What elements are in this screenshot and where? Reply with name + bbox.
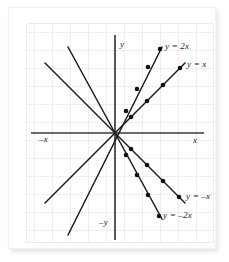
plot-frame: y –y –x x y = 2x y = x y = –x y = –2x [26, 23, 214, 243]
data-point [161, 83, 166, 88]
line-label-y-neg-x: y = –x [186, 192, 210, 201]
data-point [145, 163, 150, 168]
data-point [135, 173, 140, 178]
data-point [135, 87, 140, 92]
data-point [145, 99, 150, 104]
data-point [129, 115, 134, 120]
axis-label-y-negative: –y [99, 218, 108, 227]
figure-root: y –y –x x y = 2x y = x y = –x y = –2x [0, 0, 229, 262]
data-point [158, 47, 163, 52]
line-label-y-neg-2x: y = –2x [163, 211, 192, 220]
axis-label-x-negative: –x [39, 135, 48, 144]
axis-label-x-positive: x [193, 136, 197, 145]
data-point [161, 179, 166, 184]
data-point [129, 147, 134, 152]
data-point [124, 153, 129, 158]
line-label-y-2x: y = 2x [165, 42, 189, 51]
data-point [157, 214, 162, 219]
axis-label-y-positive: y [120, 40, 124, 49]
paper-card: y –y –x x y = 2x y = x y = –x y = –2x [8, 7, 216, 249]
data-point [124, 109, 129, 114]
data-point [177, 195, 182, 200]
data-point [146, 193, 151, 198]
data-point [178, 66, 183, 71]
data-point [146, 65, 151, 70]
line-label-y-x: y = x [187, 60, 207, 69]
